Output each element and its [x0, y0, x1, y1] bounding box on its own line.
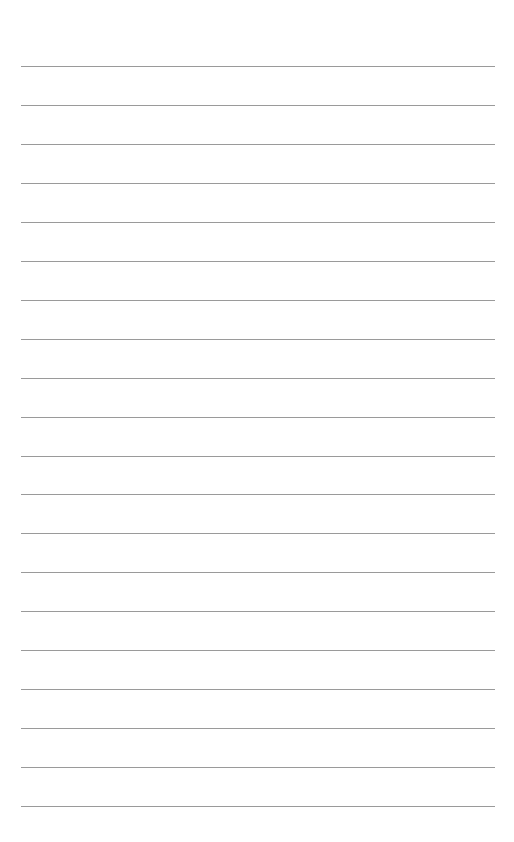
ruled-line: [21, 689, 495, 690]
ruled-line: [21, 144, 495, 145]
ruled-line: [21, 494, 495, 495]
ruled-line: [21, 650, 495, 651]
ruled-line: [21, 611, 495, 612]
ruled-line: [21, 533, 495, 534]
ruled-line: [21, 183, 495, 184]
ruled-line: [21, 300, 495, 301]
ruled-line: [21, 66, 495, 67]
ruled-line: [21, 456, 495, 457]
ruled-line: [21, 572, 495, 573]
ruled-line: [21, 378, 495, 379]
ruled-line: [21, 417, 495, 418]
ruled-line: [21, 767, 495, 768]
ruled-line: [21, 222, 495, 223]
lined-page: [0, 0, 514, 842]
ruled-line: [21, 105, 495, 106]
ruled-line: [21, 806, 495, 807]
ruled-line: [21, 728, 495, 729]
ruled-line: [21, 261, 495, 262]
ruled-line: [21, 339, 495, 340]
